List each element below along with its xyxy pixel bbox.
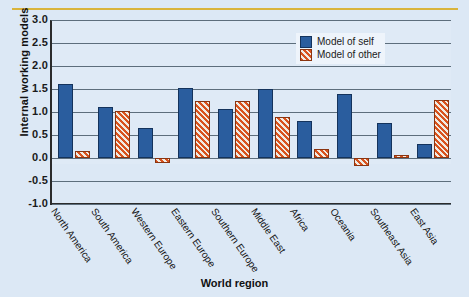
y-axis-tick-label: -0.5: [2, 174, 48, 186]
bar-group: [256, 20, 296, 204]
chart-figure: Internal working models 3.02.52.01.51.00…: [0, 0, 469, 297]
bar-model-of-other: [75, 151, 90, 158]
bar-group: [96, 20, 136, 204]
x-axis-tick-label: Southeast Asia: [368, 206, 415, 267]
y-axis-tick-label: 0.5: [2, 128, 48, 140]
bar-model-of-other: [275, 117, 290, 158]
bar-model-of-self: [138, 128, 153, 158]
y-axis-tick-label: 1.5: [2, 82, 48, 94]
x-axis-tick-label: Africa: [288, 206, 312, 233]
y-axis-tick-label: 2.0: [2, 59, 48, 71]
bar-model-of-other: [155, 158, 170, 163]
chart-legend: Model of self Model of other: [296, 33, 385, 64]
x-axis-title: World region: [0, 277, 469, 289]
bar-model-of-other: [314, 149, 329, 158]
bar-model-of-other: [354, 158, 369, 166]
bar-model-of-other: [195, 101, 210, 159]
bar-model-of-self: [377, 123, 392, 158]
bar-model-of-self: [178, 88, 193, 158]
legend-label-self: Model of self: [317, 36, 374, 47]
bar-groups: [52, 20, 451, 204]
bar-model-of-self: [297, 121, 312, 158]
bar-model-of-self: [258, 89, 273, 158]
y-axis-tick-label: -1.0: [2, 197, 48, 209]
legend-swatch-icon-self: [300, 36, 312, 48]
bar-group: [216, 20, 256, 204]
bar-model-of-self: [98, 107, 113, 158]
legend-label-other: Model of other: [317, 49, 381, 60]
y-axis-tick-label: 1.0: [2, 105, 48, 117]
bar-model-of-self: [218, 109, 233, 158]
legend-item-model-of-self: Model of self: [300, 35, 381, 48]
bar-model-of-self: [417, 144, 432, 158]
legend-item-model-of-other: Model of other: [300, 48, 381, 61]
bar-model-of-self: [58, 84, 73, 158]
gridline: [52, 204, 451, 205]
x-axis-tick-labels: North AmericaSouth AmericaWestern Europe…: [52, 206, 451, 276]
y-axis-tick-label: 3.0: [2, 13, 48, 25]
x-axis-tick-label: Middle East: [248, 206, 287, 255]
x-axis-tick-label: Oceania: [328, 206, 358, 243]
bar-model-of-other: [235, 101, 250, 159]
top-divider-rule: [12, 8, 458, 10]
bar-model-of-self: [337, 94, 352, 158]
x-axis-tick-label: North America: [49, 206, 94, 264]
bar-model-of-other: [434, 100, 449, 158]
bar-group: [415, 20, 455, 204]
y-axis-tick-label: 0.0: [2, 151, 48, 163]
bar-model-of-other: [394, 155, 409, 158]
bar-group: [136, 20, 176, 204]
x-axis-tick-label: East Asia: [408, 206, 441, 246]
bar-group: [176, 20, 216, 204]
legend-swatch-icon-other: [300, 49, 312, 61]
y-axis-tick-label: 2.5: [2, 36, 48, 48]
x-axis-tick-label: South America: [89, 206, 135, 266]
bar-group: [56, 20, 96, 204]
bar-model-of-other: [115, 111, 130, 158]
y-axis-tick-labels: 3.02.52.01.51.00.50.0-0.5-1.0: [0, 20, 48, 204]
